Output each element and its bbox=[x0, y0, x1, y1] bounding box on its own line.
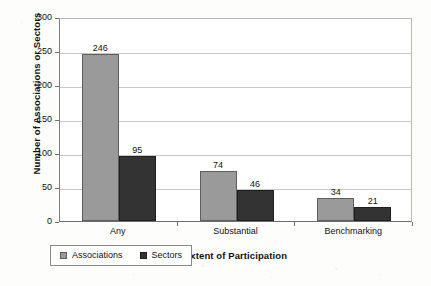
category-label-any: Any bbox=[59, 226, 177, 236]
x-tick-mark bbox=[412, 222, 413, 226]
legend-swatch-icon bbox=[60, 252, 67, 259]
bar-sectors-substantial bbox=[237, 190, 274, 221]
plot-area: 2469574463421 bbox=[59, 18, 412, 222]
legend: AssociationsSectors bbox=[50, 245, 192, 266]
bar-value-label: 95 bbox=[113, 146, 162, 155]
bar-chart: Number of Associations or Sectors 050100… bbox=[0, 0, 431, 286]
category-label-substantial: Substantial bbox=[177, 226, 295, 236]
y-tick-label: 100 bbox=[26, 149, 52, 158]
y-tick-label: 250 bbox=[26, 47, 52, 56]
bar-value-label: 21 bbox=[348, 197, 397, 206]
legend-swatch-icon bbox=[140, 252, 147, 259]
category-label-benchmarking: Benchmarking bbox=[294, 226, 412, 236]
bar-value-label: 34 bbox=[311, 188, 360, 197]
y-tick-label: 50 bbox=[26, 183, 52, 192]
bar-value-label: 246 bbox=[76, 44, 125, 53]
legend-label: Associations bbox=[72, 251, 123, 260]
y-tick-label: 150 bbox=[26, 115, 52, 124]
bar-value-label: 46 bbox=[231, 180, 280, 189]
legend-item-associations[interactable]: Associations bbox=[60, 251, 123, 260]
bar-associations-any bbox=[82, 54, 119, 221]
legend-item-sectors[interactable]: Sectors bbox=[140, 251, 183, 260]
y-tick-label: 300 bbox=[26, 13, 52, 22]
y-tick-label: 0 bbox=[26, 217, 52, 226]
y-tick-label: 200 bbox=[26, 81, 52, 90]
y-tick-mark bbox=[55, 222, 59, 223]
legend-label: Sectors bbox=[152, 251, 183, 260]
bar-sectors-benchmarking bbox=[354, 207, 391, 221]
bar-associations-substantial bbox=[200, 171, 237, 221]
bar-sectors-any bbox=[119, 156, 156, 221]
bar-value-label: 74 bbox=[194, 161, 243, 170]
